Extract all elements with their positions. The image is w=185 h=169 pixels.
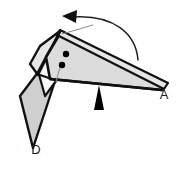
- marker-dot-lower: [59, 62, 65, 68]
- marker-dot-upper: [63, 51, 69, 57]
- vertex-label-d: D: [31, 142, 40, 157]
- origami-diagram-figure: A D: [0, 0, 185, 169]
- origami-diagram-canvas: A D: [0, 0, 185, 169]
- vertex-label-a: A: [160, 87, 169, 102]
